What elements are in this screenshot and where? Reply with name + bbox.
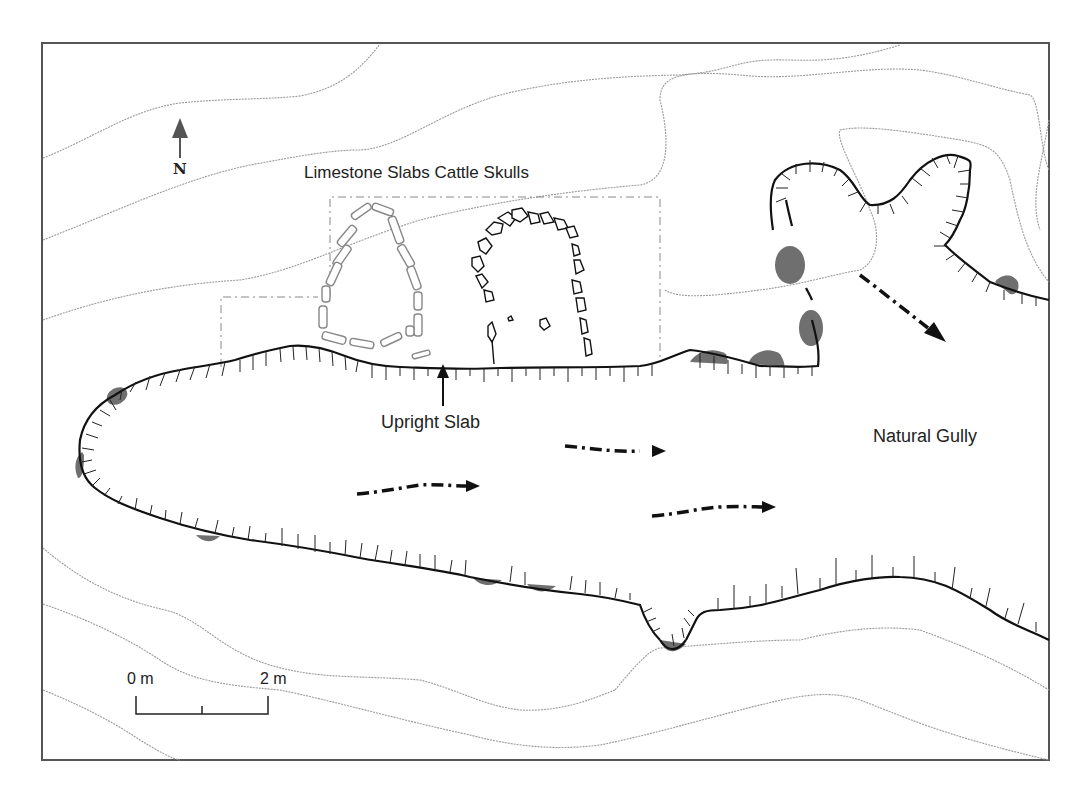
site-plan — [0, 0, 1083, 802]
scale-end-label: 2 m — [260, 670, 287, 688]
flow-arrows — [357, 275, 946, 516]
upright-slab-pointer — [437, 364, 449, 406]
natural-gully-label: Natural Gully — [873, 426, 977, 447]
cattle-skulls — [472, 208, 592, 364]
feature-title-label: Limestone Slabs Cattle Skulls — [304, 163, 529, 183]
scale-bar — [136, 696, 268, 714]
scale-start-label: 0 m — [127, 670, 154, 688]
limestone-slabs — [319, 202, 430, 359]
arrow-head-icon — [466, 480, 480, 492]
upright-slab-label: Upright Slab — [381, 412, 480, 433]
excavation-outline — [221, 197, 660, 367]
arrow-head-icon — [762, 501, 776, 513]
contour-lines — [43, 44, 1049, 760]
arrow-up-icon — [437, 364, 449, 378]
north-label: N — [173, 160, 187, 178]
arrow-head-icon — [652, 445, 666, 457]
north-arrow-icon — [172, 118, 188, 138]
arrow-head-icon — [924, 322, 946, 342]
map-frame — [42, 43, 1049, 760]
north-arrow — [172, 118, 188, 158]
